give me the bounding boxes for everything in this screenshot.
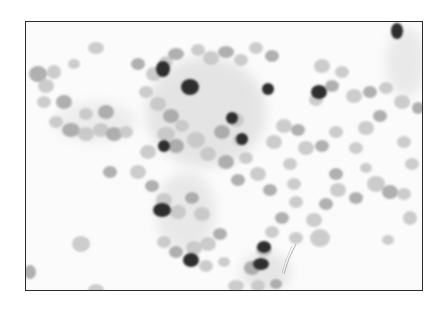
cell <box>276 119 292 133</box>
cell <box>103 166 117 178</box>
cell <box>346 89 362 103</box>
dark-nucleus <box>257 241 271 253</box>
cell <box>37 96 51 108</box>
cell <box>214 125 230 139</box>
cell <box>394 95 410 109</box>
cell <box>382 235 394 245</box>
cell <box>130 165 146 179</box>
cell <box>265 50 279 62</box>
cell <box>335 66 349 78</box>
cell <box>239 152 253 164</box>
cell <box>379 82 393 94</box>
cell <box>382 185 398 199</box>
cell <box>325 80 339 92</box>
cell <box>139 86 153 98</box>
cell <box>291 124 305 136</box>
cell <box>157 127 175 141</box>
cell <box>203 51 219 65</box>
dark-nucleus <box>311 85 327 99</box>
cell <box>199 260 213 272</box>
cell <box>218 155 234 169</box>
cell <box>131 58 145 70</box>
cell <box>150 97 166 111</box>
cell <box>330 183 346 197</box>
cell <box>403 211 417 225</box>
cell <box>68 59 80 69</box>
cell <box>56 95 72 109</box>
dark-nucleus <box>153 203 171 217</box>
cell <box>250 167 266 181</box>
cell <box>289 232 303 244</box>
cell <box>315 140 329 152</box>
cell <box>231 174 245 186</box>
cell <box>168 48 184 60</box>
cell <box>163 109 179 123</box>
cell <box>349 192 363 204</box>
cell <box>310 229 330 247</box>
cell <box>38 79 54 93</box>
cell <box>98 105 114 119</box>
cell <box>119 126 133 138</box>
cell <box>367 176 385 192</box>
cell <box>287 178 301 190</box>
cell <box>175 120 189 132</box>
cell <box>157 236 171 248</box>
cell <box>62 123 80 137</box>
cell <box>298 141 314 155</box>
cell <box>191 44 205 56</box>
cell <box>145 180 159 192</box>
cell <box>349 142 363 154</box>
cell <box>373 110 387 122</box>
dark-nucleus <box>391 23 403 39</box>
cell <box>306 213 322 227</box>
cell <box>249 42 263 54</box>
cell <box>263 184 277 196</box>
cell <box>265 226 279 238</box>
cell <box>405 158 419 170</box>
dark-nucleus <box>262 83 274 95</box>
cell <box>187 132 205 148</box>
cell <box>170 205 186 219</box>
cell <box>140 145 156 159</box>
cell <box>329 126 343 138</box>
cell <box>185 192 199 204</box>
cell <box>49 116 63 128</box>
dark-nucleus <box>236 133 248 145</box>
cell <box>275 212 289 224</box>
cell <box>397 136 411 148</box>
cell <box>88 42 104 54</box>
dark-nucleus <box>181 79 199 95</box>
cell <box>397 188 411 200</box>
cell <box>360 163 372 173</box>
cell <box>283 158 297 170</box>
cell <box>78 127 94 141</box>
cell <box>72 236 90 252</box>
cell <box>200 147 216 161</box>
cell <box>314 59 330 73</box>
cell <box>186 241 202 255</box>
cell <box>169 246 183 258</box>
cell <box>234 54 248 66</box>
cell <box>213 228 227 240</box>
cell <box>266 135 282 149</box>
cell <box>47 65 61 79</box>
cytology-micrograph <box>26 22 422 290</box>
cell <box>329 168 343 180</box>
dark-nucleus <box>158 140 170 152</box>
cell <box>194 207 210 221</box>
micrograph-frame <box>25 21 423 291</box>
cell <box>319 198 333 210</box>
cell <box>363 86 377 98</box>
dark-nucleus <box>156 61 170 77</box>
cell <box>289 196 303 208</box>
cell <box>218 46 234 58</box>
dark-nucleus <box>253 258 269 270</box>
cell <box>218 257 230 267</box>
cell <box>200 237 216 251</box>
cell <box>168 139 184 153</box>
cell <box>358 121 374 135</box>
cell <box>270 279 282 289</box>
dark-nucleus <box>226 112 238 124</box>
dark-nucleus <box>183 253 199 267</box>
cell <box>79 108 93 120</box>
